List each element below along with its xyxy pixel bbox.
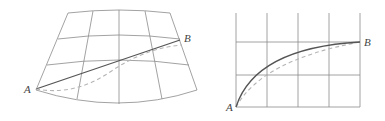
label-a-right: A: [225, 101, 233, 113]
meridian-right: [170, 13, 197, 90]
label-b-left: B: [184, 32, 191, 44]
label-a-left: A: [23, 83, 31, 95]
parallel-bottom: [36, 90, 197, 103]
meridian-left: [36, 13, 68, 90]
dashed-path: [36, 45, 182, 91]
meridian-4: [145, 11, 162, 99]
figure: A B A B: [0, 0, 385, 121]
right-grid: A B: [225, 13, 371, 113]
meridian-2: [77, 11, 93, 99]
left-graticule: A B: [23, 10, 197, 104]
label-b-right: B: [364, 36, 371, 48]
